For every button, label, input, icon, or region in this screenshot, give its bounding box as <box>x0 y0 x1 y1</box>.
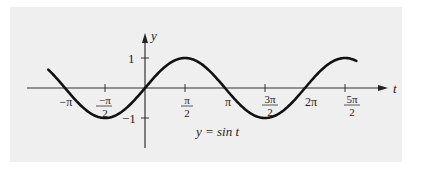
y-axis-label: y <box>149 28 157 43</box>
x-tick-label-five-pi-half: 5π 2 <box>344 93 360 118</box>
svg-text:3π: 3π <box>264 93 276 105</box>
x-tick-label-neg-pi-half: −π 2 <box>96 94 112 119</box>
t-axis-arrow-icon <box>378 85 388 91</box>
sine-chart: y t 1 −1 −π −π 2 π 2 π 3π 2 2π 5π 2 y = … <box>0 0 421 172</box>
function-caption: y = sin t <box>194 124 239 139</box>
svg-text:2: 2 <box>184 107 190 119</box>
svg-text:−π: −π <box>99 94 111 106</box>
t-axis-label: t <box>393 81 397 96</box>
x-tick-label-two-pi: 2π <box>305 95 317 109</box>
y-tick-label-minus-1: −1 <box>122 111 136 126</box>
svg-text:5π: 5π <box>346 93 358 105</box>
svg-text:2: 2 <box>102 107 108 119</box>
x-tick-label-pi: π <box>225 95 231 109</box>
svg-text:2: 2 <box>349 106 355 118</box>
svg-text:2: 2 <box>267 106 273 118</box>
svg-text:π: π <box>184 94 190 106</box>
x-tick-label-neg-pi: −π <box>60 95 73 109</box>
y-tick-label-1: 1 <box>128 51 135 66</box>
x-tick-label-pi-half: π 2 <box>181 94 193 119</box>
y-axis-arrow-icon <box>142 33 148 43</box>
